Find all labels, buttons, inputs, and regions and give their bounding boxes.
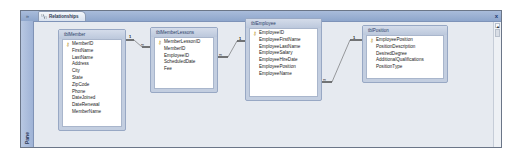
table-box-tblEmployee[interactable]: tblEmployee ⚷EmployeeIDEmployeeFirstName… (245, 18, 322, 101)
scroll-up-arrow-icon[interactable]: ▲ (495, 23, 500, 28)
scroll-thumb[interactable] (495, 29, 500, 37)
table-title[interactable]: tblPosition (363, 26, 447, 35)
table-box-tblPosition[interactable]: tblPosition ⚷EmployeePositionPositionDes… (362, 25, 448, 83)
field-row[interactable]: FirstName (63, 48, 121, 55)
field-name: Phone (72, 89, 85, 94)
relationships-icon (41, 14, 47, 19)
field-row[interactable]: EmployeeFirstName (250, 37, 317, 44)
field-row[interactable]: Address (63, 61, 121, 68)
field-name: EmployeeLastName (259, 44, 300, 49)
field-name: EmployeeSalary (259, 50, 292, 55)
field-list: ⚷EmployeeIDEmployeeFirstNameEmployeeLast… (249, 28, 318, 97)
field-row[interactable]: Phone (63, 89, 121, 96)
field-name: PositionDescription (376, 44, 415, 49)
field-row[interactable]: MemberID (155, 46, 213, 53)
field-row[interactable]: State (63, 75, 121, 82)
table-title[interactable]: tblMemberLessons (151, 28, 217, 37)
field-name: DateJoined (72, 95, 95, 100)
field-name: City (72, 68, 80, 73)
field-row[interactable]: EmployeeLastName (250, 44, 317, 51)
field-row[interactable]: ⚷MemberID (63, 41, 121, 48)
field-row[interactable]: EmployeeSalary (250, 50, 317, 57)
field-row[interactable]: EmployeeID (155, 53, 213, 60)
field-name: State (72, 75, 83, 80)
field-row[interactable]: DesiredDegree (367, 51, 443, 58)
table-box-tblMemberLessons[interactable]: tblMemberLessons ⚷MemberLessonIDMemberID… (150, 27, 218, 93)
field-name: EmployeePosition (259, 64, 296, 69)
pane-label: Pane (24, 124, 30, 144)
field-name: Address (72, 61, 89, 66)
field-list: ⚷MemberIDFirstNameLastNameAddressCitySta… (62, 39, 122, 127)
primary-key-icon: ⚷ (158, 39, 162, 46)
table-title[interactable]: tblMember (59, 30, 125, 39)
tab-relationships[interactable]: Relationships (38, 11, 86, 21)
field-list: ⚷MemberLessonIDMemberIDEmployeeIDSchedul… (154, 37, 214, 89)
field-row[interactable]: ⚷EmployeePosition (367, 37, 443, 44)
table-box-tblMember[interactable]: tblMember ⚷MemberIDFirstNameLastNameAddr… (58, 29, 126, 131)
field-row[interactable]: DateJoined (63, 95, 121, 102)
field-row[interactable]: ⚷EmployeeID (250, 30, 317, 37)
field-name: DesiredDegree (376, 51, 407, 56)
field-name: MemberID (72, 41, 93, 46)
field-name: AdditionalQualifications (376, 57, 424, 62)
field-row[interactable]: AdditionalQualifications (367, 57, 443, 64)
primary-key-icon: ⚷ (253, 30, 257, 37)
table-title[interactable]: tblEmployee (246, 19, 321, 28)
field-row[interactable]: MemberName (63, 109, 121, 116)
primary-key-icon: ⚷ (66, 41, 70, 48)
field-name: EmployeeID (259, 30, 284, 35)
field-row[interactable]: PositionDescription (367, 44, 443, 51)
navigation-pane-collapsed[interactable]: Pane (21, 21, 34, 147)
field-name: MemberLessonID (164, 39, 200, 44)
field-name: EmployeeName (259, 71, 292, 76)
field-row[interactable]: EmployeeName (250, 71, 317, 78)
pane-toggle-button[interactable]: » (23, 12, 32, 20)
vertical-scrollbar[interactable]: ▲ (493, 22, 501, 147)
field-name: MemberID (164, 46, 185, 51)
close-icon[interactable]: x (495, 11, 498, 21)
primary-key-icon: ⚷ (370, 37, 374, 44)
field-row[interactable]: Fee (155, 66, 213, 73)
field-row[interactable]: LastName (63, 55, 121, 62)
tab-label: Relationships (49, 14, 79, 19)
field-row[interactable]: DateRenewal (63, 102, 121, 109)
field-name: ZipCode (72, 82, 89, 87)
field-name: Fee (164, 66, 172, 71)
field-name: FirstName (72, 48, 93, 53)
field-row[interactable]: PositionType (367, 64, 443, 71)
field-row[interactable]: ⚷MemberLessonID (155, 39, 213, 46)
field-row[interactable]: ScheduledDate (155, 59, 213, 66)
field-row[interactable]: ZipCode (63, 82, 121, 89)
field-row[interactable]: EmployeePosition (250, 64, 317, 71)
field-row[interactable]: City (63, 68, 121, 75)
field-row[interactable]: EmployeeHireDate (250, 57, 317, 64)
field-name: EmployeeHireDate (259, 57, 298, 62)
field-name: MemberName (72, 109, 101, 114)
field-name: EmployeeFirstName (259, 37, 301, 42)
field-name: EmployeePosition (376, 37, 413, 42)
field-name: ScheduledDate (164, 59, 195, 64)
field-name: LastName (72, 55, 93, 60)
field-name: EmployeeID (164, 53, 189, 58)
field-list: ⚷EmployeePositionPositionDescriptionDesi… (366, 35, 444, 79)
field-name: PositionType (376, 64, 402, 69)
field-name: DateRenewal (72, 102, 100, 107)
